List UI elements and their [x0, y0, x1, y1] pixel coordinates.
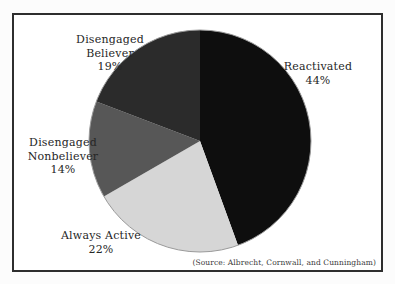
slice-percent: 22% — [55, 243, 147, 257]
chart-frame: Disengaged Believer 19% Reactivated 44% … — [12, 13, 383, 272]
slice-label-reactivated: Reactivated 44% — [272, 60, 364, 87]
source-note: (Source: Albrecht, Cornwall, and Cunning… — [192, 258, 376, 267]
slice-label-always-active: Always Active 22% — [55, 229, 147, 256]
slice-label-disengaged-nonbeliever: Disengaged Nonbeliever 14% — [19, 136, 107, 177]
slice-label-text: Reactivated — [272, 60, 364, 74]
slice-percent: 44% — [272, 74, 364, 88]
slice-label-disengaged-believer: Disengaged Believer 19% — [66, 33, 154, 74]
slice-percent: 19% — [66, 60, 154, 74]
slice-label-text: Disengaged Nonbeliever — [19, 136, 107, 163]
slice-label-text: Disengaged Believer — [66, 33, 154, 60]
slice-percent: 14% — [19, 163, 107, 177]
slice-label-text: Always Active — [55, 229, 147, 243]
